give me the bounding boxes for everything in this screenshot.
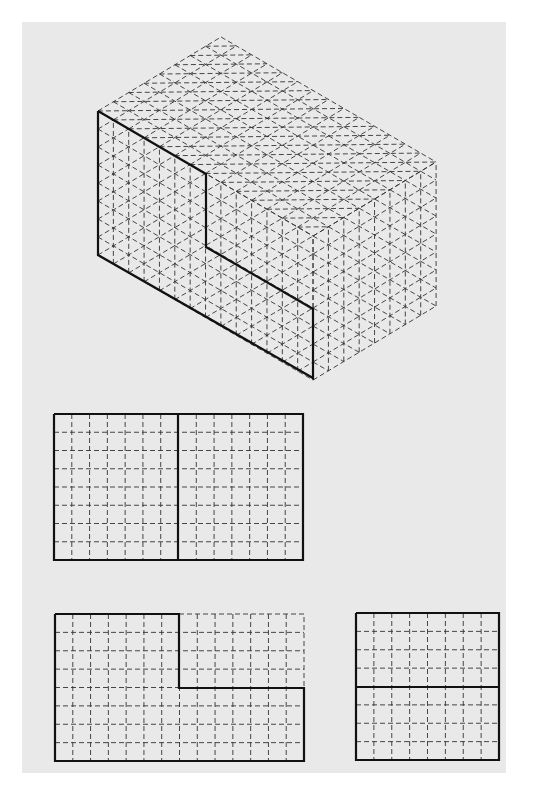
drawing-sheet [0,0,551,789]
